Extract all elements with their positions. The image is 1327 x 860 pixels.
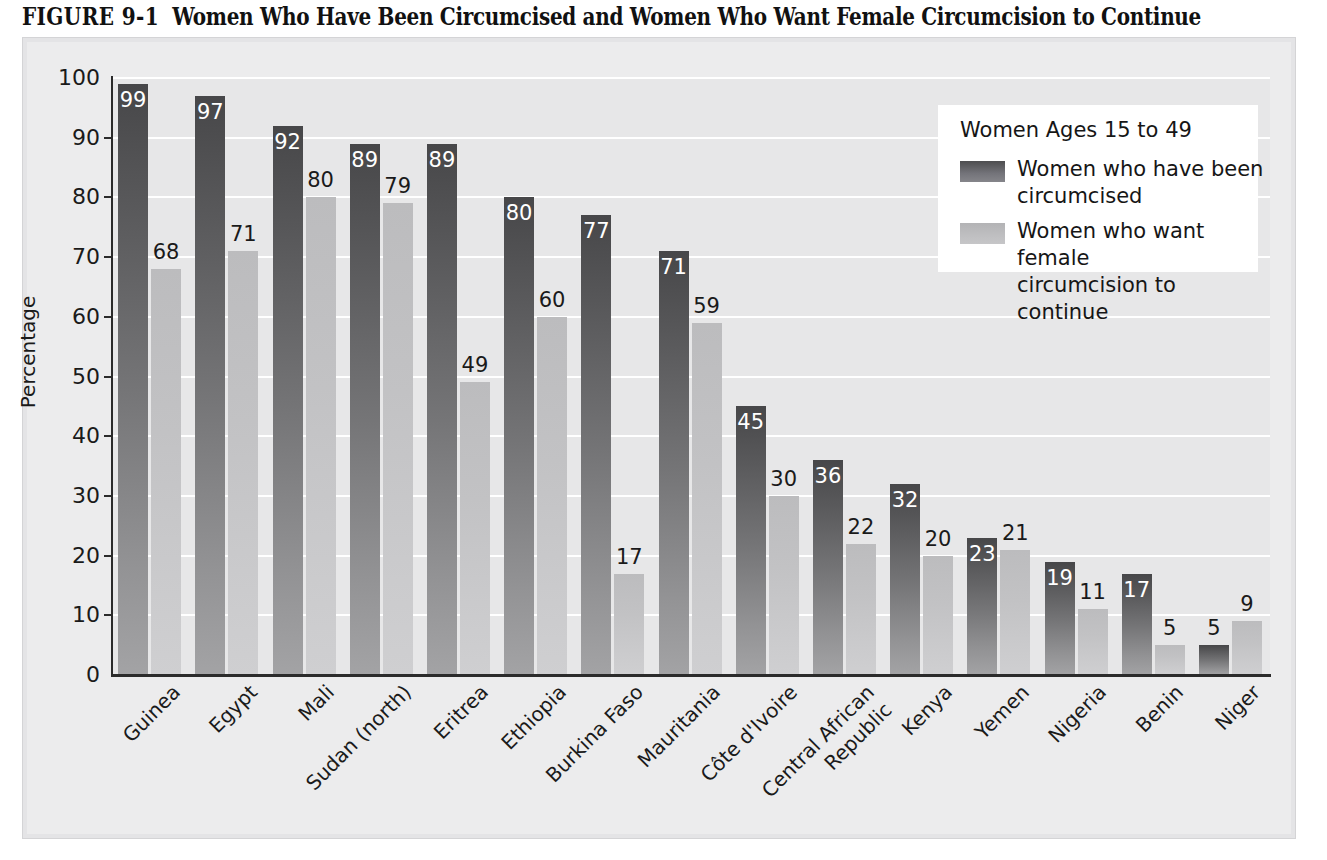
y-axis-tick-label: 0 [30,662,100,687]
bar-value-label: 71 [228,224,258,245]
y-axis-tick-label: 90 [30,125,100,150]
legend: Women Ages 15 to 49 Women who have been … [938,105,1258,272]
bar-value-label: 20 [923,529,953,550]
y-axis-tick [104,196,112,198]
bar-value-label: 17 [1122,580,1152,601]
page-title: FIGURE 9-1 Women Who Have Been Circumcis… [22,2,1046,34]
bar-group: 7717 [581,78,644,675]
bar-value-label: 80 [306,170,336,191]
bar-value-label: 79 [383,176,413,197]
bar-value-label: 92 [273,132,303,153]
legend-title: Women Ages 15 to 49 [960,118,1192,142]
y-axis-tick-label: 30 [30,483,100,508]
y-axis-tick-label: 100 [30,65,100,90]
bar[interactable]: 11 [1078,609,1108,675]
bar[interactable]: 89 [350,144,380,675]
y-axis-tick [104,614,112,616]
bar[interactable]: 32 [890,484,920,675]
bar-group: 9968 [118,78,181,675]
y-axis-tick [104,376,112,378]
y-axis-title: Percentage [16,262,40,442]
bar[interactable]: 21 [1000,550,1030,675]
y-axis-tick [104,495,112,497]
y-axis-tick [104,555,112,557]
bar[interactable]: 5 [1199,645,1229,675]
bar-value-label: 89 [350,150,380,171]
bar[interactable]: 17 [614,574,644,675]
bar-value-label: 60 [537,290,567,311]
bar[interactable]: 45 [736,406,766,675]
bar-value-label: 45 [736,412,766,433]
legend-entry[interactable]: Women who have been circumcised [960,157,1240,213]
bar-value-label: 71 [659,257,689,278]
y-axis-tick-label: 60 [30,304,100,329]
bar[interactable]: 49 [460,382,490,675]
bar[interactable]: 92 [273,126,303,675]
bar-value-label: 49 [460,355,490,376]
y-axis-tick-label: 80 [30,184,100,209]
bar[interactable]: 5 [1155,645,1185,675]
bar-value-label: 68 [151,242,181,263]
y-axis-tick-label: 20 [30,543,100,568]
bar[interactable]: 99 [118,84,148,675]
bar-value-label: 22 [846,517,876,538]
bar-value-label: 21 [1000,523,1030,544]
y-axis-tick [104,316,112,318]
y-axis-tick-label: 40 [30,423,100,448]
bar[interactable]: 97 [195,96,225,675]
bar[interactable]: 80 [504,197,534,675]
bar[interactable]: 23 [967,538,997,675]
bar[interactable]: 22 [846,544,876,675]
bar-group: 3622 [813,78,876,675]
bar[interactable]: 30 [769,496,799,675]
legend-label: Women who have been circumcised [1017,156,1267,210]
bar-value-label: 5 [1155,618,1185,639]
bar[interactable]: 77 [581,215,611,675]
figure-number: FIGURE 9-1 [22,2,159,31]
bar[interactable]: 80 [306,197,336,675]
bar-value-label: 11 [1078,582,1108,603]
bar-value-label: 19 [1045,568,1075,589]
bar[interactable]: 17 [1122,574,1152,675]
y-axis-tick [104,256,112,258]
bar[interactable]: 71 [659,251,689,675]
y-axis-tick [104,137,112,139]
y-axis-tick-label: 50 [30,364,100,389]
bar-value-label: 30 [769,469,799,490]
legend-swatch-icon [960,161,1005,182]
bar-group: 8060 [504,78,567,675]
bar-value-label: 77 [581,221,611,242]
bar-value-label: 97 [195,102,225,123]
bar-value-label: 36 [813,466,843,487]
bar[interactable]: 36 [813,460,843,675]
bar[interactable]: 9 [1232,621,1262,675]
bar-value-label: 23 [967,544,997,565]
x-axis-line [111,674,1271,677]
bar[interactable]: 59 [692,323,722,675]
bar-value-label: 5 [1199,618,1229,639]
legend-swatch-icon [960,223,1005,244]
bar[interactable]: 79 [383,203,413,675]
bar-group: 9771 [195,78,258,675]
bar[interactable]: 20 [923,556,953,675]
figure-title-text: Women Who Have Been Circumcised and Wome… [172,2,1201,31]
bar[interactable]: 71 [228,251,258,675]
bar[interactable]: 19 [1045,562,1075,675]
bar[interactable]: 60 [537,317,567,675]
bar-value-label: 32 [890,490,920,511]
bar-value-label: 89 [427,150,457,171]
bar-value-label: 9 [1232,594,1262,615]
y-axis-tick-label: 10 [30,602,100,627]
bar-group: 8949 [427,78,490,675]
bar-value-label: 59 [692,296,722,317]
x-axis-labels: GuineaEgyptMaliSudan (north)EritreaEthio… [112,680,1270,840]
legend-entry[interactable]: Women who want female circumcision to co… [960,219,1240,275]
legend-label: Women who want female circumcision to co… [1017,218,1267,326]
y-axis-tick-label: 70 [30,244,100,269]
bar[interactable]: 89 [427,144,457,675]
bar-group: 4530 [736,78,799,675]
bar-group: 9280 [273,78,336,675]
bar-value-label: 80 [504,203,534,224]
bar[interactable]: 68 [151,269,181,675]
bar-value-label: 99 [118,90,148,111]
